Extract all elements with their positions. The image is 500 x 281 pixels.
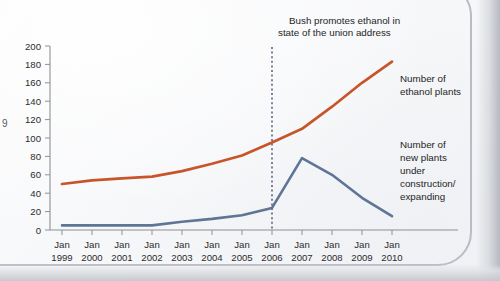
y-axis: 200 180 160 140 120 100 80 60 40 20 0	[25, 41, 50, 236]
x-tick-year-2006: 2006	[261, 252, 282, 263]
page-bottom-shadow	[0, 264, 500, 281]
y-tick-label-200: 200	[25, 41, 41, 52]
bush-annotation-line-1: Bush promotes ethanol in	[289, 15, 400, 26]
page-edge-artifact: 9	[2, 118, 8, 129]
x-tick-month-2008: Jan	[324, 239, 339, 250]
x-tick-year-2007: 2007	[291, 252, 312, 263]
x-tick-month-2007: Jan	[294, 239, 309, 250]
x-tick-year-2001: 2001	[111, 252, 132, 263]
x-tick-year-1999: 1999	[51, 252, 72, 263]
x-tick-month-1999: Jan	[54, 239, 69, 250]
x-tick-year-2008: 2008	[321, 252, 342, 263]
x-axis: Jan Jan Jan Jan Jan Jan Jan Jan Jan Jan …	[50, 230, 458, 263]
ethanol-plants-series-line	[62, 62, 392, 184]
y-axis-ticks	[45, 46, 50, 230]
page-right-shadow	[476, 0, 500, 281]
ethanol-plants-label-line-2: ethanol plants	[400, 86, 461, 97]
y-tick-label-0: 0	[36, 225, 41, 236]
y-tick-label-20: 20	[30, 206, 41, 217]
x-tick-year-2005: 2005	[231, 252, 252, 263]
x-tick-month-2003: Jan	[174, 239, 189, 250]
y-tick-label-40: 40	[30, 188, 41, 199]
x-tick-year-2010: 2010	[381, 252, 402, 263]
new-plants-series-line	[62, 158, 392, 225]
y-tick-label-120: 120	[25, 114, 41, 125]
x-tick-month-2001: Jan	[114, 239, 129, 250]
new-plants-label-line-4: construction/	[400, 178, 456, 189]
x-tick-year-2009: 2009	[351, 252, 372, 263]
x-tick-year-2004: 2004	[201, 252, 223, 263]
x-tick-month-2005: Jan	[234, 239, 249, 250]
new-plants-label-line-2: new plants	[400, 152, 447, 163]
scanned-chart-page: 200 180 160 140 120 100 80 60 40 20 0 9	[0, 0, 500, 281]
x-tick-year-2003: 2003	[171, 252, 192, 263]
ethanol-plants-line-chart: 200 180 160 140 120 100 80 60 40 20 0 9	[0, 0, 500, 281]
y-tick-label-100: 100	[25, 133, 41, 144]
x-tick-month-2009: Jan	[354, 239, 369, 250]
new-plants-label-line-5: expanding	[400, 191, 445, 202]
y-tick-label-180: 180	[25, 59, 41, 70]
x-tick-month-2004: Jan	[204, 239, 219, 250]
chart-container: 200 180 160 140 120 100 80 60 40 20 0 9	[0, 0, 500, 281]
new-plants-label-line-3: under	[400, 165, 426, 176]
y-tick-label-160: 160	[25, 77, 41, 88]
ethanol-plants-label: Number of ethanol plants	[400, 73, 461, 97]
x-axis-ticks	[62, 230, 392, 235]
x-tick-year-2002: 2002	[141, 252, 162, 263]
new-plants-label-line-1: Number of	[400, 139, 446, 150]
bush-ethanol-annotation: Bush promotes ethanol in state of the un…	[278, 15, 400, 38]
x-tick-year-2000: 2000	[81, 252, 102, 263]
x-tick-month-2010: Jan	[384, 239, 399, 250]
y-tick-label-60: 60	[30, 169, 41, 180]
x-tick-month-2006: Jan	[264, 239, 279, 250]
y-tick-label-80: 80	[30, 151, 41, 162]
x-tick-month-2000: Jan	[84, 239, 99, 250]
x-tick-month-2002: Jan	[144, 239, 159, 250]
ethanol-plants-label-line-1: Number of	[400, 73, 446, 84]
bush-annotation-line-2: state of the union address	[278, 27, 391, 38]
y-tick-label-140: 140	[25, 96, 41, 107]
new-plants-label: Number of new plants under construction/…	[400, 139, 456, 202]
